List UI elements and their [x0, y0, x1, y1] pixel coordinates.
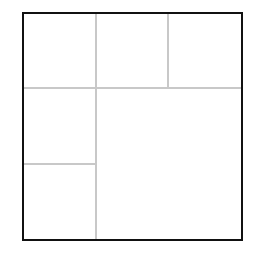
- subdivided-square-diagram: [0, 0, 257, 254]
- cell-top-right: [168, 13, 242, 88]
- cell-bottom-left: [23, 164, 96, 240]
- diagram-canvas: [0, 0, 257, 254]
- cell-middle-left: [23, 88, 96, 164]
- cells-layer: [23, 13, 242, 240]
- cell-top-middle: [96, 13, 168, 88]
- cell-large-bottom-right: [96, 88, 242, 240]
- cell-top-left: [23, 13, 96, 88]
